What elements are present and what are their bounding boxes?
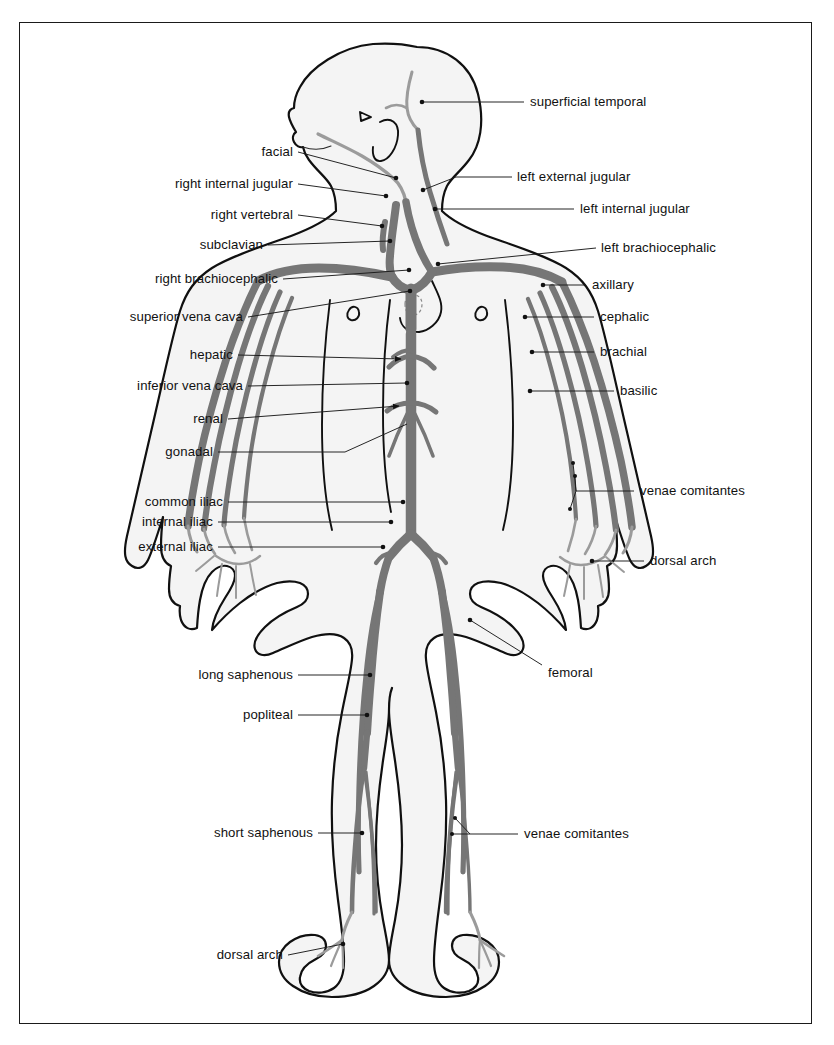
label-dorsal-arch-foot: dorsal arch (90, 948, 283, 961)
label-internal-iliac: internal iliac (20, 515, 213, 528)
label-right-internal-jugular: right internal jugular (100, 177, 293, 190)
label-long-saphenous: long saphenous (100, 668, 293, 681)
label-superficial-temporal: superficial temporal (530, 95, 646, 108)
label-left-internal-jugular: left internal jugular (580, 202, 690, 215)
label-superior-vena-cava: superior vena cava (50, 310, 243, 323)
label-dorsal-arch-hand: dorsal arch (650, 554, 716, 567)
label-renal: renal (30, 412, 223, 425)
label-basilic: basilic (620, 384, 657, 397)
label-cephalic: cephalic (600, 310, 649, 323)
label-femoral: femoral (548, 666, 593, 679)
label-inferior-vena-cava: inferior vena cava (50, 379, 243, 392)
label-left-brachiocephalic: left brachiocephalic (601, 241, 716, 254)
label-axillary: axillary (592, 278, 634, 291)
label-popliteal: popliteal (100, 708, 293, 721)
label-left-external-jugular: left external jugular (517, 170, 631, 183)
label-common-iliac: common iliac (30, 495, 223, 508)
label-venae-comitantes-leg: venae comitantes (524, 827, 629, 840)
label-venae-comitantes-arm: venae comitantes (640, 484, 745, 497)
label-right-vertebral: right vertebral (100, 208, 293, 221)
label-gonadal: gonadal (20, 445, 213, 458)
label-facial: facial (100, 145, 293, 158)
label-right-brachiocephalic: right brachiocephalic (85, 272, 278, 285)
label-subclavian: subclavian (70, 238, 263, 251)
label-external-iliac: external iliac (20, 540, 213, 553)
diagram-page: .body-outline{fill:#f4f4f4;stroke:#10101… (0, 0, 834, 1045)
label-short-saphenous: short saphenous (120, 826, 313, 839)
label-hepatic: hepatic (40, 348, 233, 361)
label-brachial: brachial (600, 345, 647, 358)
